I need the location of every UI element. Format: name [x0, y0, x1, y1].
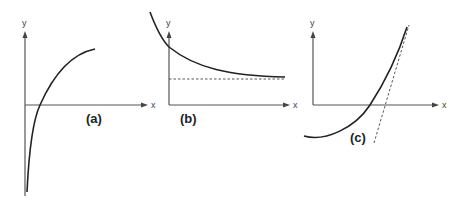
panel-label-a: (a) — [86, 111, 102, 126]
y-label-c: y — [310, 18, 315, 28]
curve-a — [27, 49, 95, 192]
y-arrow-icon-b — [167, 31, 172, 38]
x-label-a: x — [151, 100, 156, 110]
y-label-a: y — [22, 18, 27, 28]
tangent-line-c — [374, 25, 409, 143]
panel-b: y x (b) — [150, 12, 298, 126]
x-label-b: x — [293, 100, 298, 110]
x-arrow-icon-c — [432, 103, 439, 108]
panel-label-c: (c) — [350, 130, 366, 145]
panel-label-b: (b) — [180, 111, 197, 126]
y-arrow-icon-c — [311, 31, 316, 38]
panel-c: y x (c) — [304, 18, 447, 145]
x-label-c: x — [442, 100, 447, 110]
x-arrow-icon-a — [141, 103, 148, 108]
y-arrow-icon-a — [23, 31, 28, 38]
y-label-b: y — [166, 18, 171, 28]
panel-a: y x (a) — [22, 18, 156, 196]
curve-c — [304, 27, 407, 137]
x-arrow-icon-b — [283, 103, 290, 108]
figure-canvas: y x (a) y x (b) y x (c) — [0, 0, 467, 204]
